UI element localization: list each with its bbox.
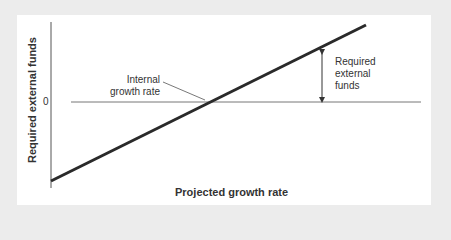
internal-growth-annotation: Internal growth rate — [110, 74, 160, 98]
annotation-line: external — [335, 68, 376, 80]
required-funds-annotation: Required external funds — [335, 56, 376, 92]
x-axis-label: Projected growth rate — [175, 186, 288, 198]
funds-line — [51, 25, 366, 181]
y-tick-zero: 0 — [43, 96, 49, 107]
y-axis-label: Required external funds — [26, 37, 38, 163]
annotation-line: growth rate — [110, 86, 160, 98]
internal-growth-leader — [163, 82, 205, 100]
annotation-line: Internal — [110, 74, 160, 86]
annotation-line: Required — [335, 56, 376, 68]
annotation-line: funds — [335, 80, 376, 92]
